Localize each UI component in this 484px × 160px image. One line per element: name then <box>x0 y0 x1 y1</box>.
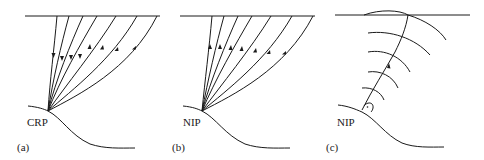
point-label-c: NIP <box>337 117 355 128</box>
arrow-up-icon <box>253 48 257 53</box>
arrow-up-icon <box>240 46 244 51</box>
arrow-up-icon <box>100 45 104 50</box>
point-label-a: CRP <box>27 117 48 128</box>
caption-b: (b) <box>172 142 185 153</box>
arrow-down-icon <box>52 53 56 58</box>
arrow-down-icon <box>60 56 64 61</box>
arrows-a <box>52 44 137 61</box>
panel-b <box>180 16 315 148</box>
right-angle-marker <box>364 103 373 112</box>
caption-c: (c) <box>326 142 338 153</box>
arrow-down-icon <box>78 54 82 59</box>
arrow-up-icon <box>132 46 136 50</box>
wavefront <box>362 88 384 100</box>
figure-stage: CRP (a) NIP (b) NIP (c) <box>0 0 484 160</box>
rays-b <box>202 16 313 111</box>
diagram-canvas <box>0 0 484 160</box>
arrow-up-icon <box>229 45 233 50</box>
panel-a <box>25 16 160 148</box>
panel-c <box>335 11 470 147</box>
arrows-b <box>208 44 286 55</box>
arrow-up-icon <box>88 44 92 49</box>
arrow-up-icon <box>218 44 222 49</box>
normal-ray-c <box>362 15 408 110</box>
arrow-up-icon <box>282 51 286 55</box>
wavefront <box>368 72 398 88</box>
point-label-b: NIP <box>183 117 201 128</box>
caption-a: (a) <box>17 142 29 153</box>
rays-a <box>48 16 157 111</box>
